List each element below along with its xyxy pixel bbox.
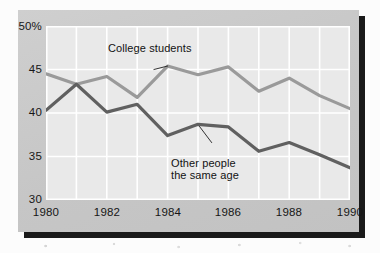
- annotation-college-students: College students: [108, 42, 192, 55]
- y-tick-45: 45: [6, 63, 42, 75]
- annotation-other-people-line1: Other people: [171, 157, 236, 170]
- x-tick-1982: 1982: [87, 206, 127, 218]
- x-tick-1988: 1988: [269, 206, 309, 218]
- chart-panel: 50% 45 40 35 30 1980 1982 1984 1986 1988…: [18, 10, 359, 232]
- y-tick-40: 40: [6, 106, 42, 118]
- x-tick-1984: 1984: [148, 206, 188, 218]
- y-tick-35: 35: [6, 150, 42, 162]
- x-tick-1980: 1980: [26, 206, 66, 218]
- x-tick-1990: 1990: [330, 206, 370, 218]
- annotation-other-people-line2: the same age: [171, 169, 239, 182]
- y-tick-50: 50%: [6, 20, 42, 32]
- x-tick-1986: 1986: [208, 206, 248, 218]
- y-tick-30: 30: [6, 193, 42, 205]
